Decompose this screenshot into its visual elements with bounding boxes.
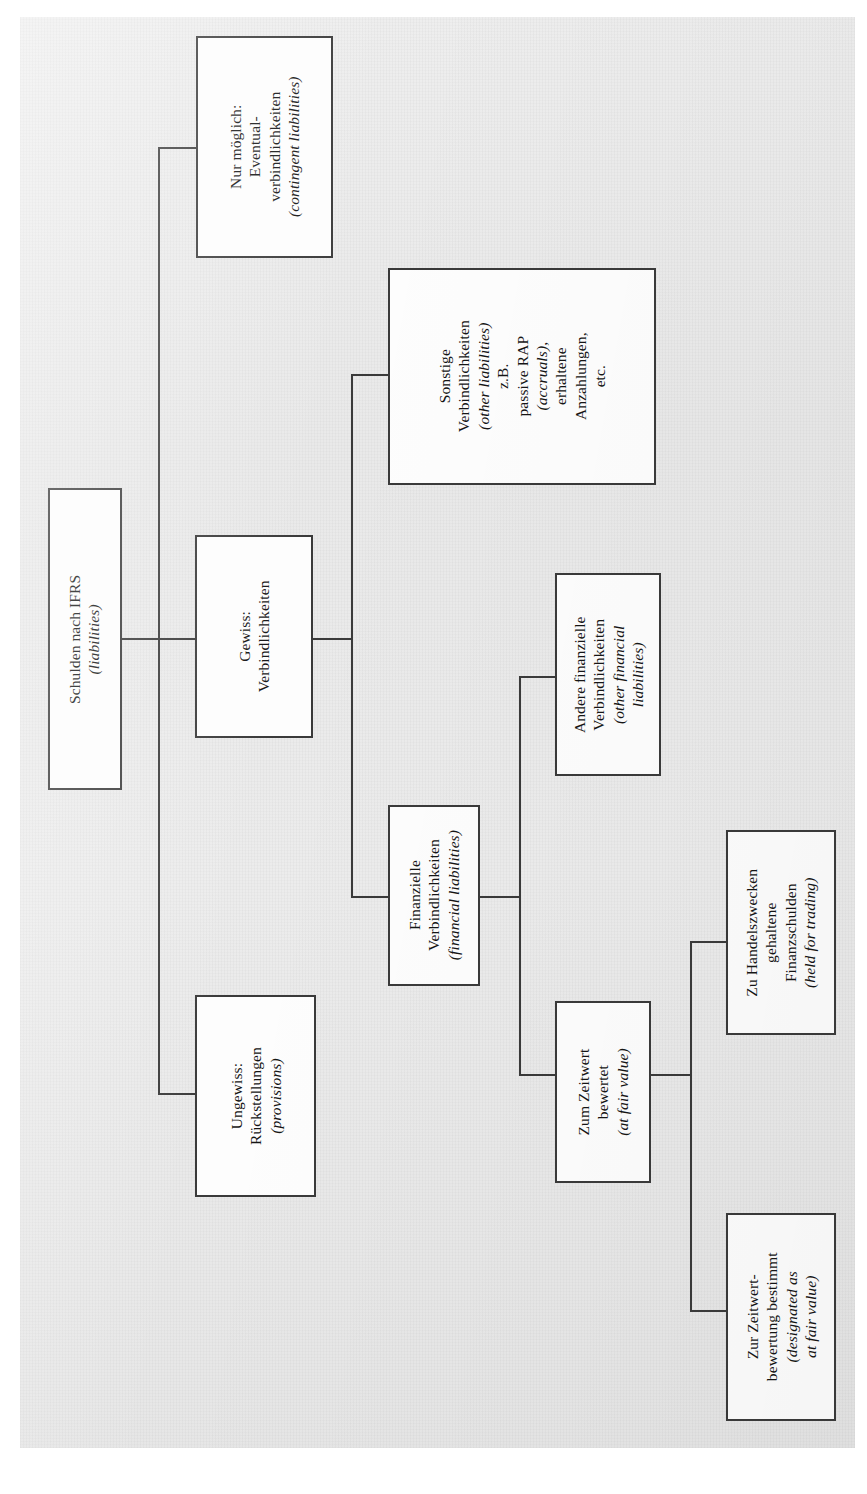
node-gewiss-verbindlichkeiten[interactable]: Gewiss: Verbindlichkeiten <box>195 535 313 738</box>
node-schulden-nach-ifrs[interactable]: Schulden nach IFRS (liabilities) <box>48 488 122 790</box>
node-zum-zeitwert-label: Zum Zeitwert bewertet (at fair value) <box>574 1048 632 1136</box>
connector-level3-trunk <box>519 676 521 1076</box>
node-finanzielle-verbindlichkeiten[interactable]: Finanzielle Verbindlichkeiten (financial… <box>388 805 480 986</box>
node-sonstige-verbindlichkeiten[interactable]: Sonstige Verbindlichkeiten (other liabil… <box>388 268 656 485</box>
connector-level3-to-zum-zeitwert <box>519 1074 555 1076</box>
connector-level1-trunk <box>158 147 160 1095</box>
connector-level1-to-gewiss <box>158 638 195 640</box>
node-andere-finanzielle-verbindlichkeiten[interactable]: Andere finanzielle Verbindlichkeiten (ot… <box>555 573 661 776</box>
connector-root-stub <box>122 638 162 640</box>
connector-zum-zeitwert-stub <box>651 1074 691 1076</box>
connector-level4-to-zeitwertbewertung <box>690 1310 726 1312</box>
node-gewiss-label: Gewiss: Verbindlichkeiten <box>235 581 274 693</box>
connector-level2-to-sonstige <box>351 374 388 376</box>
node-nur-moeglich-label: Nur möglich: Eventual- verbindlichkeiten… <box>226 77 304 218</box>
node-zeitwertbewertung-label: Zur Zeitwert- bewertung bestimmt (design… <box>742 1253 820 1382</box>
connector-level4-trunk <box>690 941 692 1312</box>
connector-level2-to-finanzielle <box>351 896 388 898</box>
node-andere-finanzielle-label: Andere finanzielle Verbindlichkeiten (ot… <box>569 616 647 733</box>
node-zur-zeitwertbewertung-bestimmt[interactable]: Zur Zeitwert- bewertung bestimmt (design… <box>726 1213 836 1421</box>
node-ungewiss-rueckstellungen[interactable]: Ungewiss: Rückstellungen (provisions) <box>195 995 316 1197</box>
node-nur-moeglich-eventualverbindlichkeiten[interactable]: Nur möglich: Eventual- verbindlichkeiten… <box>196 36 333 258</box>
scanned-page-surface: Schulden nach IFRS (liabilities) Nur mög… <box>20 17 855 1448</box>
node-ungewiss-label: Ungewiss: Rückstellungen (provisions) <box>226 1047 284 1145</box>
connector-gewiss-stub <box>313 638 353 640</box>
node-finanzielle-label: Finanzielle Verbindlichkeiten (financial… <box>405 830 463 960</box>
diagram-page: Schulden nach IFRS (liabilities) Nur mög… <box>0 0 867 1494</box>
connector-level4-to-handelszwecke <box>690 941 726 943</box>
node-handelszwecke-label: Zu Handelszwecken gehaltene Finanzschuld… <box>742 869 820 997</box>
node-schulden-nach-ifrs-label: Schulden nach IFRS (liabilities) <box>66 574 105 703</box>
connector-finanzielle-stub <box>480 896 520 898</box>
node-sonstige-label: Sonstige Verbindlichkeiten (other liabil… <box>435 321 609 433</box>
connector-level1-to-ungewiss <box>158 1093 195 1095</box>
node-zum-zeitwert-bewertet[interactable]: Zum Zeitwert bewertet (at fair value) <box>555 1001 651 1183</box>
connector-level3-to-andere <box>519 676 555 678</box>
connector-level1-to-nur-moeglich <box>158 147 196 149</box>
node-zu-handelszwecken-gehaltene-finanzschulden[interactable]: Zu Handelszwecken gehaltene Finanzschuld… <box>726 830 836 1035</box>
connector-level2-trunk <box>351 374 353 898</box>
